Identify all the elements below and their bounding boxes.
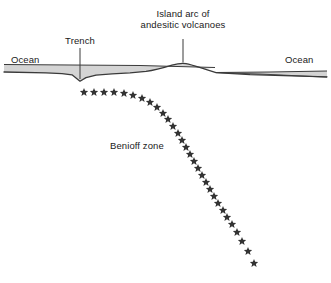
earthquake-focus-star — [233, 228, 241, 236]
earthquake-focus-star — [190, 157, 198, 165]
earthquake-focus-star — [228, 220, 236, 228]
label-island-arc-line1: Island arc of — [113, 8, 253, 19]
earthquake-focus-star — [202, 178, 210, 186]
earthquake-focus-star — [210, 192, 218, 200]
earthquake-focus-star — [80, 88, 88, 96]
earthquake-focus-star — [186, 150, 194, 158]
earthquake-focus-star — [250, 259, 258, 267]
earthquake-focus-star — [238, 237, 246, 245]
earthquake-focus-star — [194, 164, 202, 172]
earthquake-focus-star — [90, 88, 98, 96]
earthquake-focus-star — [223, 213, 231, 221]
earthquake-focus-star — [120, 89, 128, 97]
earthquake-focus-star — [159, 109, 167, 117]
earthquake-focus-star — [206, 185, 214, 193]
earthquake-focus-star — [100, 88, 108, 96]
earthquake-focus-star — [198, 171, 206, 179]
earthquake-focus-star — [129, 91, 137, 99]
earthquake-focus-star — [138, 94, 146, 102]
label-ocean-right: Ocean — [285, 54, 314, 65]
earthquake-focus-star — [169, 122, 177, 130]
earthquake-focus-star — [110, 88, 118, 96]
earthquake-focus-star — [178, 136, 186, 144]
earthquake-focus-star — [244, 247, 252, 255]
label-benioff-zone: Benioff zone — [110, 140, 164, 151]
subduction-zone-diagram: Island arc of andesitic volcanoes Trench… — [0, 0, 331, 283]
label-island-arc: Island arc of andesitic volcanoes — [113, 8, 253, 30]
label-island-arc-line2: andesitic volcanoes — [113, 19, 253, 30]
label-trench: Trench — [50, 35, 110, 46]
earthquake-focus-star — [153, 103, 161, 111]
label-ocean-left: Ocean — [11, 54, 40, 65]
earthquake-focus-star — [146, 98, 154, 106]
earthquake-focus-star — [214, 199, 222, 207]
benioff-zone-star-group — [80, 88, 258, 267]
earthquake-focus-star — [174, 129, 182, 137]
earthquake-focus-star — [182, 143, 190, 151]
earthquake-focus-star — [219, 206, 227, 214]
